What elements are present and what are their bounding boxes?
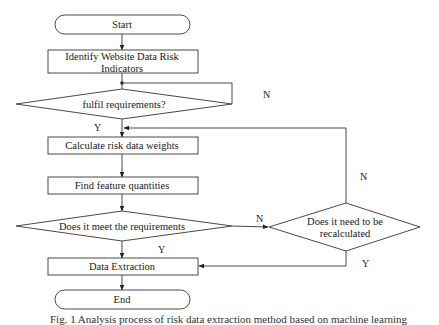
meet-n-label: N (256, 213, 263, 224)
recalc-n-label: N (360, 171, 367, 182)
calculate-label: Calculate risk data weights (65, 140, 178, 151)
find-label: Find feature quantities (75, 180, 169, 191)
edge-meet-n-recalc (232, 226, 268, 227)
figure-caption: Fig. 1 Analysis process of risk data ext… (50, 313, 407, 325)
fulfil-n-label: N (263, 89, 270, 100)
meet-y-label: Y (158, 244, 165, 255)
extract-label: Data Extraction (89, 261, 156, 272)
fulfil-y-label: Y (94, 122, 101, 133)
recalc-y-label: Y (362, 258, 369, 269)
edge-recalc-y-extract (199, 251, 346, 266)
end-label: End (114, 294, 132, 305)
recalc-label-line1: Does it need to be (307, 216, 383, 227)
start-label: Start (112, 19, 132, 30)
recalc-label-line2: recalculated (320, 228, 371, 239)
recalc-decision-diamond (269, 203, 420, 251)
meet-label: Does it meet the requirements (59, 221, 185, 232)
identify-label-line2: Indicators (101, 63, 143, 74)
fulfil-label: fulfil requirements? (82, 99, 165, 110)
identify-label-line1: Identify Website Data Risk (65, 51, 179, 62)
